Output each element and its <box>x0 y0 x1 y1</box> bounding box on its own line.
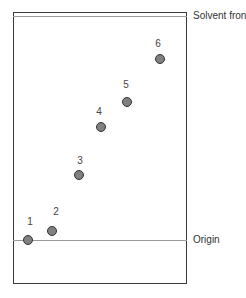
tlc-plate <box>13 12 187 284</box>
spot-4 <box>96 122 106 132</box>
spot-label-5: 5 <box>123 79 129 90</box>
spot-label-6: 6 <box>155 38 161 49</box>
spot-label-3: 3 <box>77 155 83 166</box>
spot-label-4: 4 <box>96 106 102 117</box>
solvent-front-label: Solvent front <box>193 10 246 21</box>
spot-5 <box>122 97 132 107</box>
spot-label-2: 2 <box>53 206 59 217</box>
solvent-front-line <box>13 16 187 17</box>
spot-1 <box>23 235 33 245</box>
spot-3 <box>74 170 84 180</box>
origin-label: Origin <box>193 234 220 245</box>
spot-2 <box>47 226 57 236</box>
spot-6 <box>155 54 165 64</box>
spot-label-1: 1 <box>27 216 33 227</box>
origin-line <box>13 240 187 241</box>
